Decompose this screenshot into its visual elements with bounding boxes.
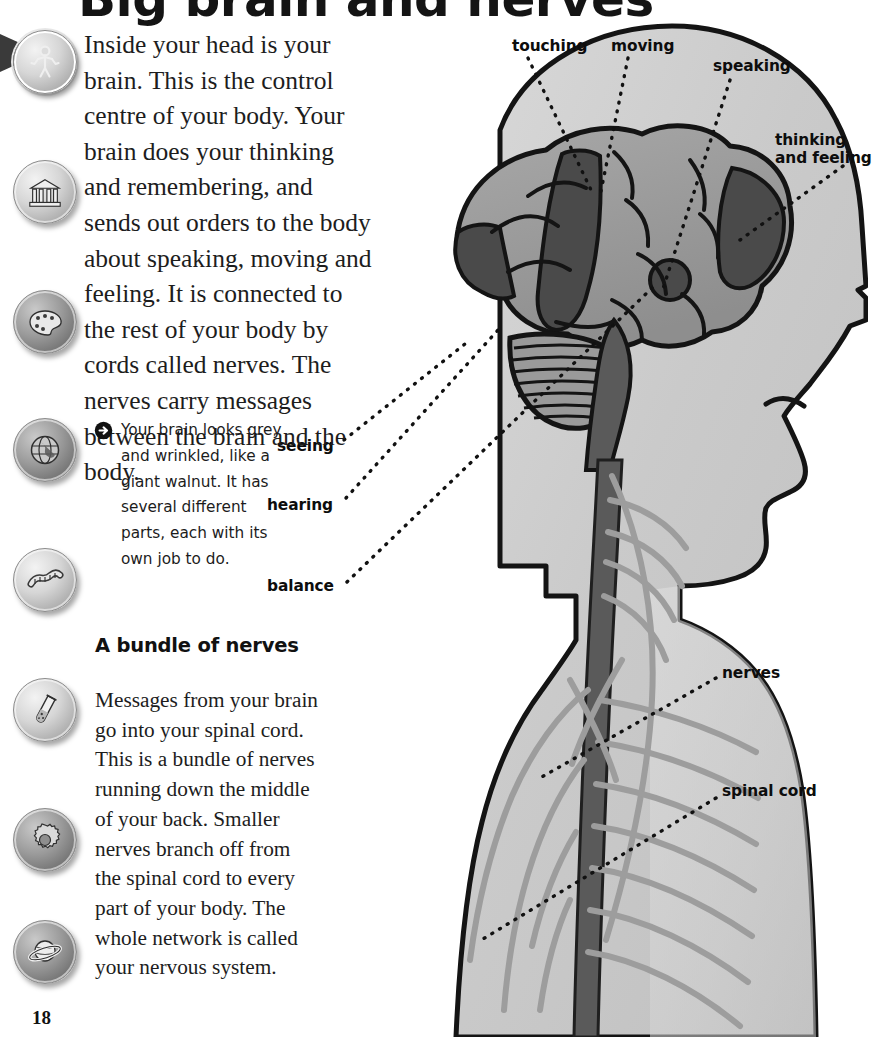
sidebar-item-human-body[interactable]: [13, 30, 77, 94]
arrow-right-circle-icon: [94, 421, 113, 440]
sidebar-item-technology[interactable]: [13, 808, 77, 872]
caterpillar-icon: [25, 560, 65, 600]
page-number: 18: [32, 1007, 51, 1029]
sidebar-item-geography[interactable]: [13, 418, 77, 482]
label-touching: touching: [512, 38, 587, 56]
globe-icon: [25, 430, 65, 470]
bundle-of-nerves-paragraph: Messages from your brain go into your sp…: [95, 686, 321, 983]
label-spinal-cord: spinal cord: [722, 783, 817, 801]
label-nerves: nerves: [722, 665, 780, 683]
test-tube-icon: [25, 690, 65, 730]
palette-icon: [25, 302, 65, 342]
label-thinking-line-2: and feeling: [775, 150, 872, 168]
label-balance: balance: [267, 578, 334, 596]
planet-saturn-icon: [25, 932, 65, 972]
label-thinking-and-feeling: thinking and feeling: [775, 132, 872, 167]
sidebar-item-nature[interactable]: [13, 548, 77, 612]
museum-building-icon: [26, 173, 64, 211]
label-thinking-line-1: thinking: [775, 132, 872, 150]
sidebar-item-history[interactable]: [13, 160, 77, 224]
sidebar-item-science[interactable]: [13, 678, 77, 742]
brain-fact-callout: Your brain looks grey and wrinkled, like…: [94, 418, 294, 573]
subject-icon-rail: 18: [0, 0, 90, 1037]
label-speaking: speaking: [713, 58, 791, 76]
gear-icon: [25, 820, 65, 860]
label-moving: moving: [611, 38, 674, 56]
callout-text: Your brain looks grey and wrinkled, like…: [121, 418, 286, 573]
sidebar-item-art[interactable]: [13, 290, 77, 354]
bundle-of-nerves-heading: A bundle of nerves: [95, 634, 299, 657]
human-body-icon: [25, 42, 65, 82]
sidebar-item-space[interactable]: [13, 920, 77, 984]
